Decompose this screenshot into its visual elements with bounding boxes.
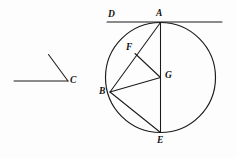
radius-b-g <box>110 78 161 93</box>
geometry-figure: D A F G B E C <box>0 0 237 158</box>
figure-canvas <box>0 0 237 158</box>
label-point-c: C <box>70 76 76 86</box>
label-point-b: B <box>99 87 105 97</box>
angle-ray-upper <box>49 55 69 82</box>
label-point-f: F <box>126 43 132 53</box>
label-point-a: A <box>156 9 162 19</box>
segment-f-g <box>135 54 161 78</box>
label-point-e: E <box>157 136 163 146</box>
label-point-d: D <box>108 10 115 20</box>
chord-a-b <box>110 23 161 93</box>
label-point-g: G <box>165 71 172 81</box>
